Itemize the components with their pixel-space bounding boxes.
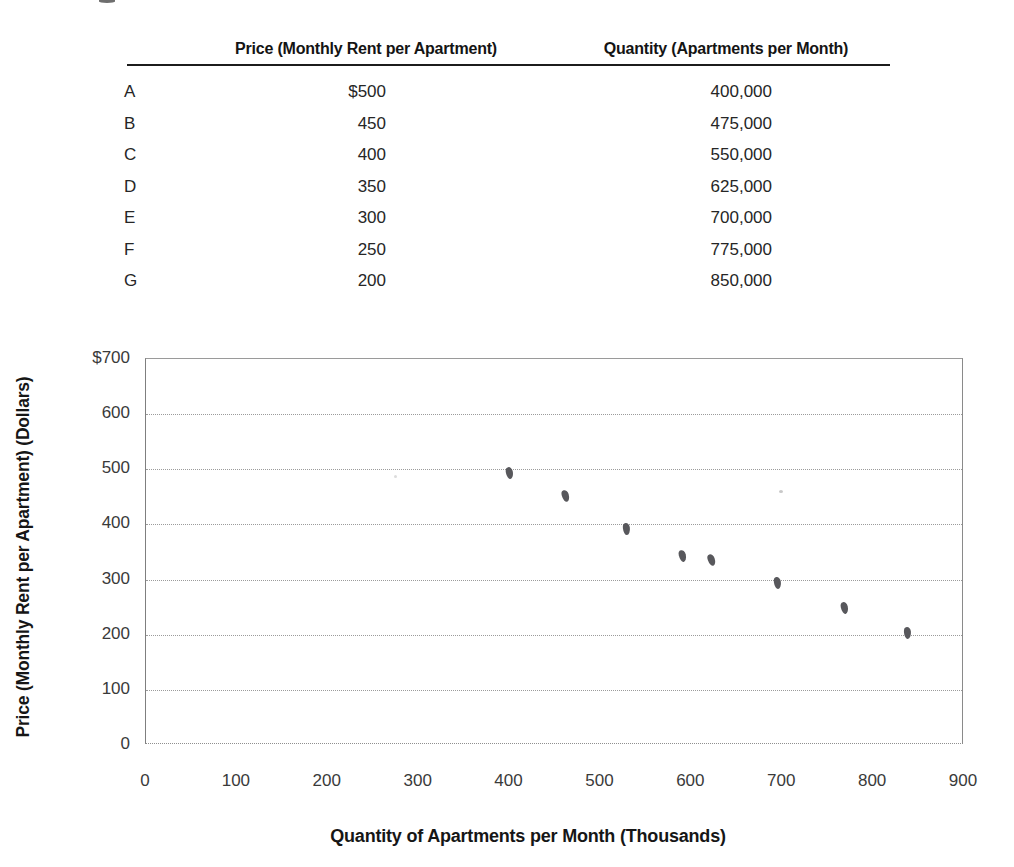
data-point — [505, 466, 514, 479]
table-row: A$500400,000 — [0, 82, 1014, 102]
gridline — [146, 524, 962, 525]
table-row: G200850,000 — [0, 271, 1014, 291]
price-cell: 300 — [246, 208, 386, 228]
data-point — [706, 553, 717, 567]
quantity-cell: 475,000 — [632, 114, 772, 134]
quantity-cell: 850,000 — [632, 271, 772, 291]
gridline — [146, 690, 962, 691]
x-tick-label: 0 — [110, 771, 180, 791]
y-tick-label: $700 — [60, 348, 130, 368]
x-tick-label: 700 — [746, 771, 816, 791]
price-cell: 450 — [246, 114, 386, 134]
quantity-cell: 550,000 — [632, 145, 772, 165]
y-axis-title: Price (Monthly Rent per Apartment) (Doll… — [13, 287, 35, 827]
scan-speck — [394, 475, 397, 478]
plot-area — [145, 358, 963, 744]
price-column-header: Price (Monthly Rent per Apartment) — [216, 40, 516, 60]
price-cell: 250 — [246, 240, 386, 260]
data-point — [904, 626, 912, 638]
x-tick-label: 500 — [564, 771, 634, 791]
gridline — [146, 469, 962, 470]
price-cell: 350 — [246, 177, 386, 197]
header-rule — [127, 64, 890, 66]
quantity-cell: 775,000 — [632, 240, 772, 260]
data-point — [677, 549, 687, 562]
y-tick-label: 300 — [60, 569, 130, 589]
x-tick-label: 300 — [383, 771, 453, 791]
price-cell: 200 — [246, 271, 386, 291]
y-tick-label: 600 — [60, 403, 130, 423]
y-tick-label: 200 — [60, 624, 130, 644]
price-cell: $500 — [246, 82, 386, 102]
table-row: E300700,000 — [0, 208, 1014, 228]
table-row: F250775,000 — [0, 240, 1014, 260]
table-row: D350625,000 — [0, 177, 1014, 197]
quantity-cell: 700,000 — [632, 208, 772, 228]
gridline — [146, 414, 962, 415]
x-tick-label: 900 — [928, 771, 998, 791]
price-cell: 400 — [246, 145, 386, 165]
y-tick-label: 400 — [60, 513, 130, 533]
row-label: F — [124, 240, 134, 260]
y-tick-label: 100 — [60, 679, 130, 699]
row-label: B — [124, 114, 135, 134]
table-row: C400550,000 — [0, 145, 1014, 165]
gridline — [146, 580, 962, 581]
x-tick-label: 600 — [655, 771, 725, 791]
y-tick-label: 500 — [60, 458, 130, 478]
row-label: E — [124, 208, 135, 228]
table-row: B450475,000 — [0, 114, 1014, 134]
x-axis-title: Quantity of Apartments per Month (Thousa… — [228, 826, 828, 847]
cutoff-text-fragment — [99, 0, 115, 3]
x-tick-label: 100 — [201, 771, 271, 791]
data-point — [561, 489, 571, 502]
x-tick-label: 800 — [837, 771, 907, 791]
y-tick-label: 0 — [60, 734, 130, 754]
row-label: C — [124, 145, 136, 165]
row-label: A — [124, 82, 135, 102]
data-point — [839, 601, 848, 614]
quantity-column-header: Quantity (Apartments per Month) — [576, 40, 876, 60]
x-tick-label: 200 — [292, 771, 362, 791]
row-label: D — [124, 177, 136, 197]
row-label: G — [124, 271, 137, 291]
scanned-textbook-page: Price (Monthly Rent per Apartment) Quant… — [0, 0, 1014, 867]
scan-speck — [779, 490, 783, 493]
gridline — [146, 635, 962, 636]
quantity-cell: 625,000 — [632, 177, 772, 197]
quantity-cell: 400,000 — [632, 82, 772, 102]
x-tick-label: 400 — [474, 771, 544, 791]
